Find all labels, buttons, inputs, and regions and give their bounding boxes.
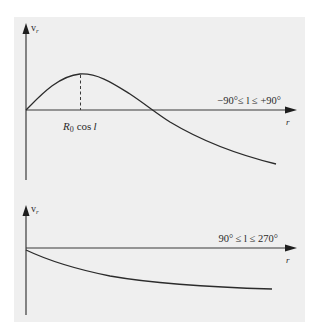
top-xlabel: r	[286, 117, 290, 127]
bottom-range-label: 90° ≤ l ≤ 270°	[218, 233, 278, 244]
top-peak-label: R0cosl	[62, 120, 96, 134]
top-ylabel: vr	[31, 22, 39, 35]
top-x-axis-arrow-icon	[285, 107, 297, 114]
top-plot: vr r −90°≤ l ≤ +90° R0cosl	[23, 22, 298, 180]
top-y-axis-arrow-icon	[23, 23, 30, 34]
bottom-x-axis-arrow-icon	[285, 245, 297, 252]
bottom-plot: vr r 90° ≤ l ≤ 270°	[23, 203, 298, 315]
bottom-xlabel: r	[286, 255, 290, 265]
bottom-y-axis-arrow-icon	[23, 205, 30, 216]
figure-svg: vr r −90°≤ l ≤ +90° R0cosl vr r 90° ≤ l …	[0, 0, 316, 328]
top-curve	[26, 74, 276, 164]
bottom-curve	[26, 250, 272, 289]
bottom-ylabel: vr	[31, 203, 39, 216]
top-range-label: −90°≤ l ≤ +90°	[217, 95, 281, 106]
